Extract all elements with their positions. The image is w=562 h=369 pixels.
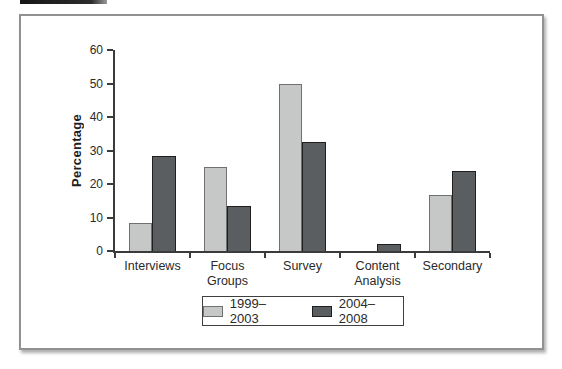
bar-2004-2008-interviews (152, 156, 176, 251)
plot-area (113, 50, 490, 253)
y-tick-label-0: 0 (71, 244, 103, 258)
x-label-line: Analysis (340, 274, 415, 289)
x-tick-mark (339, 253, 341, 258)
x-tick-mark (114, 253, 116, 258)
bar-2004-2008-content-analysis (377, 244, 401, 251)
x-tick-mark (414, 253, 416, 258)
x-label-line: Survey (265, 259, 340, 274)
x-label-content-analysis: ContentAnalysis (340, 259, 415, 289)
legend-item-2004-2008: 2004–2008 (312, 296, 403, 326)
y-tick-label-10: 10 (71, 211, 103, 225)
x-tick-mark (264, 253, 266, 258)
legend-item-1999-2003: 1999–2003 (203, 296, 294, 326)
x-label-secondary: Secondary (415, 259, 490, 274)
x-label-line: Groups (190, 274, 265, 289)
x-tick-mark (189, 253, 191, 258)
legend-label-1999-2003: 1999–2003 (230, 296, 294, 326)
y-tick-mark (107, 183, 113, 185)
x-label-line: Content (340, 259, 415, 274)
x-label-line: Interviews (115, 259, 190, 274)
chart-frame: Percentage 0102030405060 InterviewsFocus… (19, 14, 544, 350)
page-edge-strip (20, 0, 107, 4)
y-tick-mark (107, 217, 113, 219)
bar-1999-2003-interviews (129, 223, 152, 251)
y-tick-mark (107, 49, 113, 51)
legend-swatch-2004-2008 (312, 306, 332, 317)
bar-1999-2003-focus-groups (204, 167, 227, 251)
legend: 1999–20032004–2008 (202, 296, 404, 326)
x-label-interviews: Interviews (115, 259, 190, 274)
y-tick-label-30: 30 (71, 144, 103, 158)
x-label-survey: Survey (265, 259, 340, 274)
legend-swatch-1999-2003 (203, 306, 223, 317)
x-label-line: Secondary (415, 259, 490, 274)
x-label-line: Focus (190, 259, 265, 274)
x-label-focus-groups: FocusGroups (190, 259, 265, 289)
bar-2004-2008-survey (302, 142, 326, 251)
y-tick-mark (107, 83, 113, 85)
x-tick-mark (489, 253, 491, 258)
legend-label-2004-2008: 2004–2008 (339, 296, 403, 326)
y-tick-label-20: 20 (71, 177, 103, 191)
y-tick-mark (107, 150, 113, 152)
bar-2004-2008-focus-groups (227, 206, 251, 251)
bar-1999-2003-survey (279, 84, 302, 252)
bar-1999-2003-secondary (429, 195, 452, 251)
y-tick-label-40: 40 (71, 110, 103, 124)
bar-2004-2008-secondary (452, 171, 476, 251)
y-tick-mark (107, 250, 113, 252)
y-tick-mark (107, 116, 113, 118)
y-tick-label-60: 60 (71, 43, 103, 57)
y-tick-label-50: 50 (71, 77, 103, 91)
